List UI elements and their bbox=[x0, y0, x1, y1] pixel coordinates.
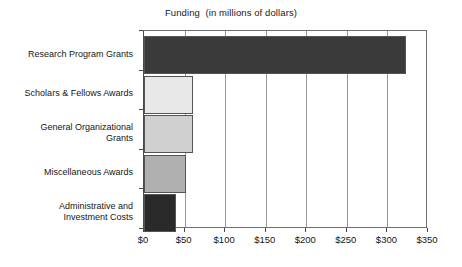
bar bbox=[144, 36, 406, 74]
y-tick-mark bbox=[139, 188, 143, 189]
category-label: General Organizational Grants bbox=[0, 122, 138, 144]
y-tick-mark bbox=[139, 228, 143, 229]
funding-bar-chart: Funding (in millions of dollars) Researc… bbox=[0, 0, 462, 267]
category-axis-labels: Research Program GrantsScholars & Fellow… bbox=[0, 30, 138, 228]
category-label: Miscellaneous Awards bbox=[0, 167, 138, 178]
plot-area bbox=[143, 30, 427, 228]
x-tick-label: $250 bbox=[326, 234, 366, 245]
bar bbox=[144, 115, 193, 153]
category-label: Research Program Grants bbox=[0, 49, 138, 60]
x-tick-label: $200 bbox=[285, 234, 325, 245]
x-tick-label: $350 bbox=[407, 234, 447, 245]
chart-title: Funding (in millions of dollars) bbox=[0, 7, 462, 18]
x-tick-mark bbox=[184, 228, 185, 232]
bar bbox=[144, 76, 193, 114]
category-label: Scholars & Fellows Awards bbox=[0, 88, 138, 99]
bar bbox=[144, 155, 186, 193]
x-tick-mark bbox=[305, 228, 306, 232]
bar bbox=[144, 194, 176, 232]
x-tick-mark bbox=[224, 228, 225, 232]
y-tick-mark bbox=[139, 149, 143, 150]
x-tick-label: $150 bbox=[245, 234, 285, 245]
y-tick-mark bbox=[139, 30, 143, 31]
x-tick-mark bbox=[346, 228, 347, 232]
x-tick-label: $0 bbox=[123, 234, 163, 245]
y-tick-mark bbox=[139, 70, 143, 71]
x-tick-label: $100 bbox=[204, 234, 244, 245]
x-tick-label: $50 bbox=[164, 234, 204, 245]
x-tick-mark bbox=[386, 228, 387, 232]
x-tick-label: $300 bbox=[366, 234, 406, 245]
x-tick-mark bbox=[427, 228, 428, 232]
x-tick-mark bbox=[143, 228, 144, 232]
category-label: Administrative and Investment Costs bbox=[0, 201, 138, 223]
y-tick-mark bbox=[139, 109, 143, 110]
x-tick-mark bbox=[265, 228, 266, 232]
